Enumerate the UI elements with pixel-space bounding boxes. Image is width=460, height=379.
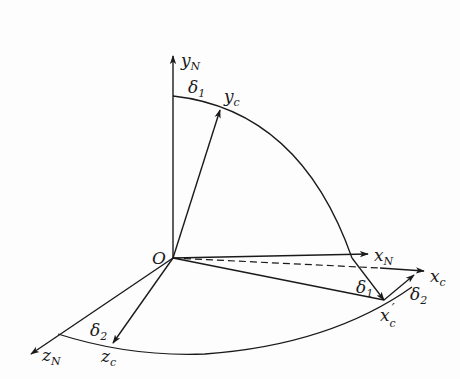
arc-zN-to-xc [58, 287, 412, 354]
coordinate-frame-diagram: O yN yc xN xc xc′ zN zc δ1 δ1 δ2 δ2 [0, 0, 460, 379]
label-origin: O [152, 248, 166, 268]
arc-yN-to-xN [173, 96, 352, 258]
label-delta1-right: δ1 [356, 277, 373, 300]
label-zc: zc [100, 346, 116, 369]
axis-xc [380, 268, 424, 271]
label-yN: yN [180, 50, 201, 73]
axis-xc-dashed [173, 258, 380, 268]
label-delta1-top: δ1 [188, 77, 205, 100]
axis-xN [173, 254, 368, 258]
label-delta2-right: δ2 [410, 284, 427, 307]
axis-yc [173, 110, 220, 258]
label-xc-prime: xc′ [380, 301, 396, 330]
label-yc: yc [223, 86, 240, 109]
label-xc: xc [430, 266, 446, 289]
label-delta2-bottom: δ2 [90, 320, 107, 343]
label-xN: xN [374, 245, 394, 268]
label-zN: zN [41, 345, 61, 368]
axis-zc [113, 258, 173, 343]
axis-xc-prime [173, 258, 384, 300]
diagram-canvas: O yN yc xN xc xc′ zN zc δ1 δ1 δ2 δ2 [0, 0, 460, 379]
